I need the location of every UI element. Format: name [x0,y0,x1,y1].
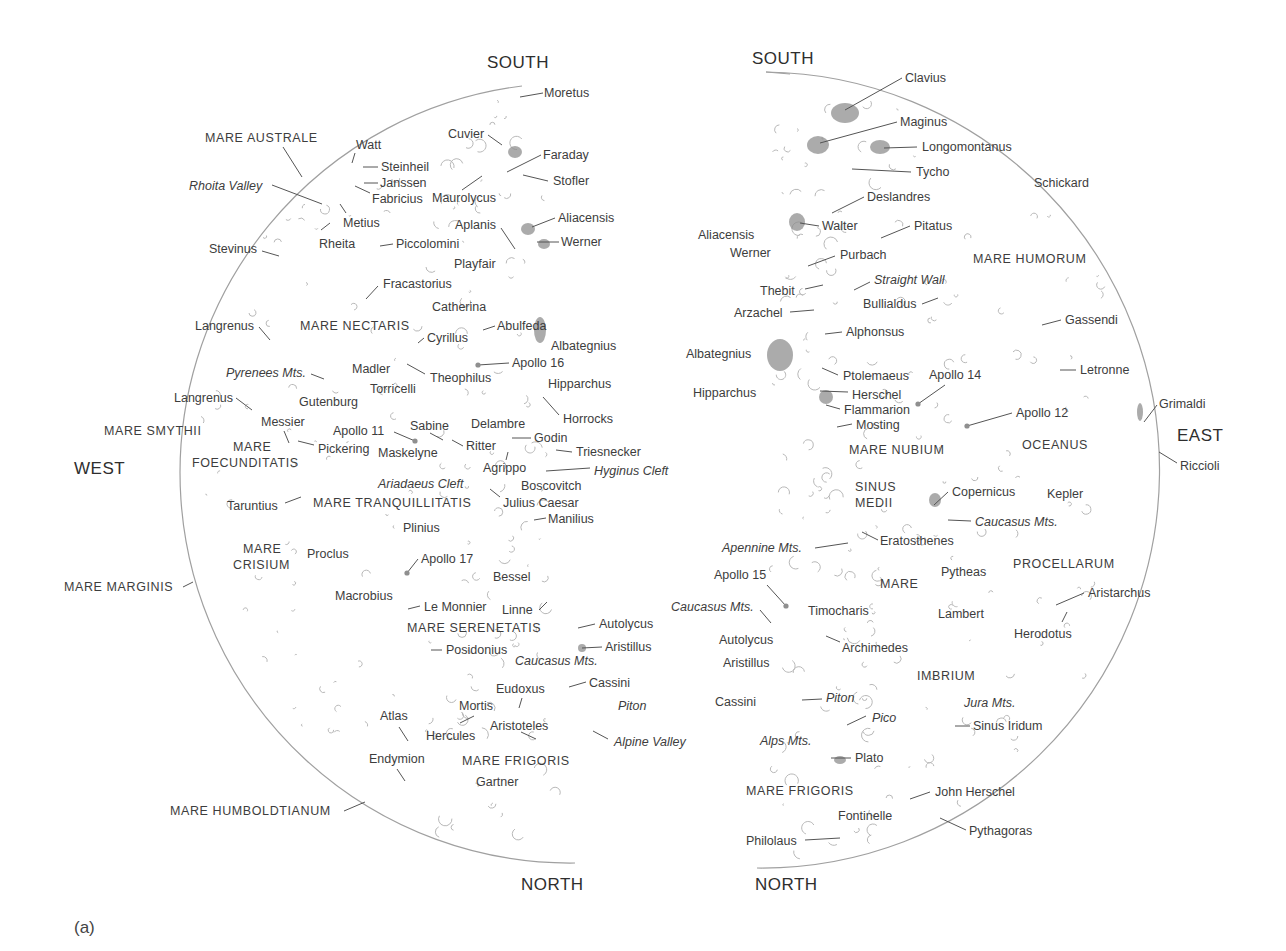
label-sinus: SINUS [855,481,896,494]
leader-line [1062,612,1067,622]
label-mare: MARE [233,441,272,454]
dark-crater-floor [1137,403,1143,421]
label-fracastorius: Fracastorius [383,278,452,291]
label-mare-nubium: MARE NUBIUM [849,444,945,457]
leader-line [478,363,509,365]
label-apollo-16: Apollo 16 [512,357,564,370]
leader-line [283,147,302,177]
leader-line [556,450,572,452]
label-stevinus: Stevinus [209,243,257,256]
label-maginus: Maginus [900,116,947,129]
label-procellarum: PROCELLARUM [1013,558,1115,571]
label-schickard: Schickard [1034,177,1089,190]
leader-line [483,326,495,330]
label-rhoita-valley: Rhoita Valley [189,180,262,193]
label-oceanus: OCEANUS [1022,439,1088,452]
label-apollo-15: Apollo 15 [714,569,766,582]
label-mare-frigoris: MARE FRIGORIS [746,785,854,798]
label-theophilus: Theophilus [430,372,491,385]
leader-line [520,93,543,97]
label-langrenus: Langrenus [195,320,254,333]
label-steinheil: Steinheil [381,161,429,174]
leader-line [837,424,852,427]
leader-line [521,732,536,739]
label-riccioli: Riccioli [1180,460,1220,473]
leader-line [490,489,500,497]
leader-line [832,197,864,213]
label-pitatus: Pitatus [914,220,952,233]
label-letronne: Letronne [1080,364,1129,377]
label-julius-caesar: Julius Caesar [503,497,579,510]
dark-crater-floor [870,140,890,154]
label-aristillus: Aristillus [723,657,770,670]
leader-line [534,518,546,520]
leader-line [790,310,814,312]
label-apennine-mts: Apennine Mts. [722,542,802,555]
leader-line [967,413,1012,426]
label-caucasus-mts: Caucasus Mts. [975,516,1058,529]
leader-line [321,223,330,230]
leader-line [355,186,370,193]
leader-line [259,327,270,340]
label-pythagoras: Pythagoras [969,825,1032,838]
leader-line [183,582,193,587]
label-apollo-11: Apollo 11 [333,425,384,438]
label-purbach: Purbach [840,249,887,262]
landing-site-dot-icon [915,401,920,406]
label-alpine-valley: Alpine Valley [614,736,686,749]
label-sinus-iridum: Sinus Iridum [973,720,1042,733]
leader-line [462,176,482,190]
leader-line [507,155,541,172]
dark-crater-floor [807,136,829,154]
leader-line [847,716,866,725]
label-triesnecker: Triesnecker [576,446,641,459]
label-werner: Werner [561,236,602,249]
leader-line [352,153,355,163]
dark-crater-floor [834,756,846,764]
leader-line [922,298,938,304]
label-plinius: Plinius [403,522,440,535]
leader-line [236,398,252,410]
label-torricelli: Torricelli [370,383,416,396]
label-maskelyne: Maskelyne [378,447,438,460]
leader-line [523,175,548,181]
label-manilius: Manilius [548,513,594,526]
label-cassini: Cassini [715,696,756,709]
moon-map-figure: MoretusMARE AUSTRALEWattCuvierFaradaySte… [0,0,1286,951]
label-mare-australe: MARE AUSTRALE [205,132,318,145]
label-mare: MARE [880,578,919,591]
label-apollo-17: Apollo 17 [421,553,473,566]
leader-line [262,251,279,256]
label-mare-serenetatis: MARE SERENETATIS [407,622,541,635]
label-cuvier: Cuvier [448,128,484,141]
label-horrocks: Horrocks [563,413,613,426]
leader-line [948,520,971,521]
label-aliacensis: Aliacensis [558,212,614,225]
label-pytheas: Pytheas [941,566,986,579]
leader-line [802,699,822,700]
leader-line [311,374,324,379]
label-watt: Watt [356,139,381,152]
label-sabine: Sabine [410,420,449,433]
label-delambre: Delambre [471,418,525,431]
label-lambert: Lambert [938,608,984,621]
label-stofler: Stofler [553,175,589,188]
label-mosting: Mosting [856,419,900,432]
leader-line [805,285,823,289]
direction-south-right: SOUTH [752,50,814,67]
leader-line [578,624,595,628]
label-endymion: Endymion [369,753,425,766]
label-alps-mts: Alps Mts. [760,735,811,748]
label-bessel: Bessel [493,571,531,584]
leader-line [1159,452,1177,463]
label-taruntius: Taruntius [227,500,278,513]
leader-line [918,385,945,404]
leader-line [815,543,848,548]
leader-line [805,838,840,840]
leader-line [394,432,415,441]
landing-site-dot-icon [475,362,480,367]
label-mare-marginis: MARE MARGINIS [64,581,173,594]
leader-line [340,204,346,213]
leader-line [767,585,786,606]
label-posidonius: Posidonius [446,644,507,657]
